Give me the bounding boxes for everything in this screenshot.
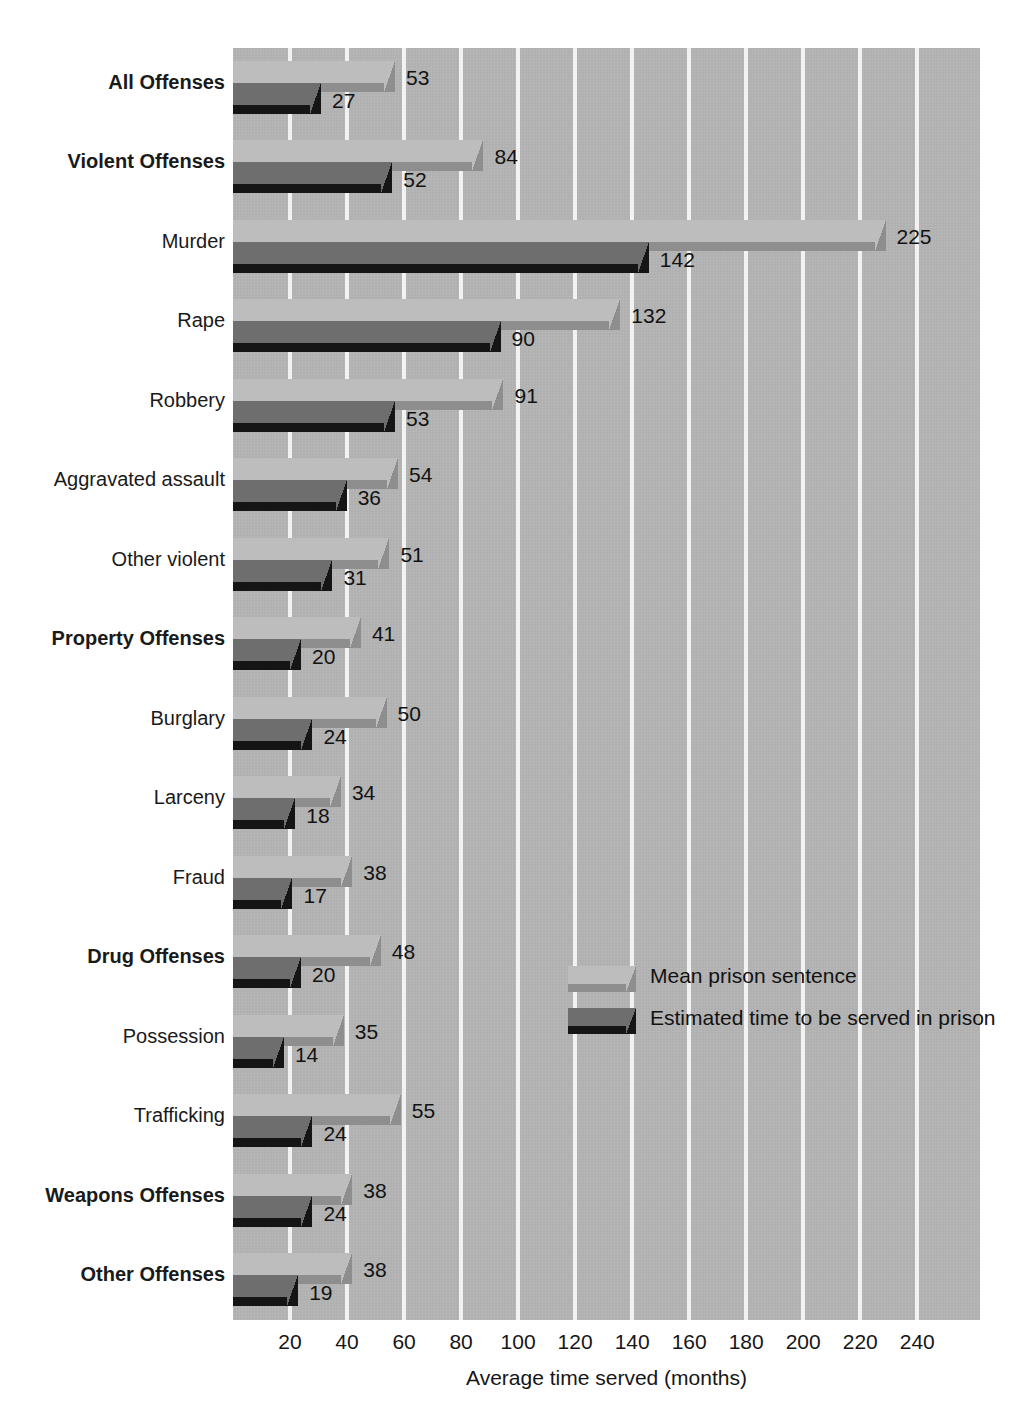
legend-swatch-cap <box>626 966 636 992</box>
bar-face <box>233 957 290 979</box>
x-tick-label: 60 <box>374 1330 434 1354</box>
bar-estimated-time-served <box>233 639 290 661</box>
legend-swatch-bevel <box>568 1026 626 1034</box>
bar-mean-prison-sentence <box>233 379 492 401</box>
bar-mean-prison-sentence <box>233 935 370 957</box>
bar-cap <box>281 878 292 909</box>
bar-estimated-time-served <box>233 1037 273 1059</box>
bar-mean-prison-sentence <box>233 1094 390 1116</box>
bar-cap <box>273 1037 284 1068</box>
bar-face <box>233 1174 341 1196</box>
bar-face <box>233 140 472 162</box>
bar-cap <box>376 697 387 728</box>
bar-face <box>233 458 387 480</box>
bar-face <box>233 242 638 264</box>
bar-face <box>233 401 384 423</box>
bar-value-label: 17 <box>303 885 326 907</box>
category-label: Other violent <box>0 548 225 570</box>
bar-face <box>233 538 378 560</box>
bar-bevel <box>233 741 301 750</box>
bar-face <box>233 480 336 502</box>
bar-estimated-time-served <box>233 957 290 979</box>
bar-mean-prison-sentence <box>233 697 376 719</box>
chart-row: Violent Offenses8452 <box>0 128 1019 208</box>
category-label: All Offenses <box>0 71 225 93</box>
chart-row: Other violent5131 <box>0 525 1019 605</box>
bar-cap <box>284 798 295 829</box>
bar-value-label: 132 <box>631 305 666 327</box>
x-tick-label: 140 <box>602 1330 662 1354</box>
x-tick-label: 100 <box>488 1330 548 1354</box>
bar-estimated-time-served <box>233 321 490 343</box>
bar-value-label: 53 <box>406 67 429 89</box>
bar-value-label: 27 <box>332 90 355 112</box>
bar-bevel <box>233 979 290 988</box>
bar-face <box>233 299 609 321</box>
category-label: Fraud <box>0 866 225 888</box>
bar-mean-prison-sentence <box>233 220 875 242</box>
bar-face <box>233 1253 341 1275</box>
bar-value-label: 41 <box>372 623 395 645</box>
legend-swatch-face <box>568 1008 626 1026</box>
bar-value-label: 24 <box>323 1123 346 1145</box>
bar-face <box>233 776 330 798</box>
bar-bevel <box>233 1138 301 1147</box>
legend-label: Mean prison sentence <box>650 964 857 988</box>
bar-mean-prison-sentence <box>233 458 387 480</box>
chart-row: Murder225142 <box>0 207 1019 287</box>
legend-swatch <box>568 1008 626 1026</box>
bar-cap <box>333 1015 344 1046</box>
bar-cap <box>290 639 301 670</box>
bar-mean-prison-sentence <box>233 1174 341 1196</box>
bar-face <box>233 1094 390 1116</box>
bar-value-label: 55 <box>412 1100 435 1122</box>
bar-cap <box>310 83 321 114</box>
bar-estimated-time-served <box>233 83 310 105</box>
bar-value-label: 52 <box>403 169 426 191</box>
category-label: Weapons Offenses <box>0 1184 225 1206</box>
bar-face <box>233 856 341 878</box>
bar-cap <box>287 1275 298 1306</box>
x-tick-label: 40 <box>317 1330 377 1354</box>
chart-row: All Offenses5327 <box>0 48 1019 128</box>
bar-mean-prison-sentence <box>233 856 341 878</box>
bar-mean-prison-sentence <box>233 140 472 162</box>
bar-value-label: 90 <box>512 328 535 350</box>
chart-row: Aggravated assault5436 <box>0 446 1019 526</box>
bar-value-label: 38 <box>363 1180 386 1202</box>
bar-mean-prison-sentence <box>233 61 384 83</box>
bar-estimated-time-served <box>233 878 281 900</box>
bar-cap <box>341 1253 352 1284</box>
chart-row: Trafficking5524 <box>0 1082 1019 1162</box>
bar-estimated-time-served <box>233 1116 301 1138</box>
bar-face <box>233 83 310 105</box>
bar-face <box>233 379 492 401</box>
chart-row: Property Offenses4120 <box>0 605 1019 685</box>
bar-bevel <box>233 184 381 193</box>
bar-face <box>233 220 875 242</box>
bar-value-label: 24 <box>323 726 346 748</box>
bar-cap <box>472 140 483 171</box>
bar-cap <box>387 458 398 489</box>
category-label: Rape <box>0 309 225 331</box>
legend-swatch-bevel <box>568 984 626 992</box>
bar-bevel <box>233 582 321 591</box>
bar-value-label: 91 <box>514 385 537 407</box>
legend-swatch <box>568 966 626 984</box>
chart-row: Rape13290 <box>0 287 1019 367</box>
bar-value-label: 84 <box>494 146 517 168</box>
bar-face <box>233 61 384 83</box>
category-label: Robbery <box>0 389 225 411</box>
bar-estimated-time-served <box>233 162 381 184</box>
category-label: Possession <box>0 1025 225 1047</box>
bar-cap <box>875 220 886 251</box>
bar-face <box>233 1037 273 1059</box>
bar-face <box>233 1116 301 1138</box>
bar-estimated-time-served <box>233 1275 287 1297</box>
bar-value-label: 48 <box>392 941 415 963</box>
bar-face <box>233 1275 287 1297</box>
bar-bevel <box>233 502 336 511</box>
bar-bevel <box>233 1059 273 1068</box>
bar-value-label: 36 <box>358 487 381 509</box>
bar-cap <box>370 935 381 966</box>
